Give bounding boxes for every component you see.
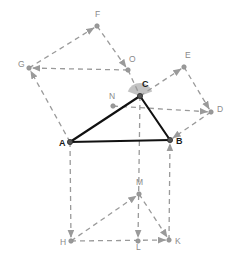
square-AB-edge-A-H — [70, 142, 71, 238]
vertex-label-f: F — [95, 10, 100, 19]
side-AB — [70, 140, 170, 142]
vertex-dot-k — [167, 238, 171, 242]
square-AB-edge-H-K — [71, 240, 166, 241]
square-CB-edge-E-D — [184, 67, 209, 109]
vertex-dot-f — [95, 24, 99, 28]
dashed-construction-lines — [29, 26, 211, 241]
vertex-dot-a — [67, 139, 72, 144]
vertex-dot-b — [167, 137, 172, 142]
vertex-label-l: L — [136, 243, 141, 252]
vertex-dot-n — [111, 104, 115, 108]
vertex-label-n: N — [109, 92, 115, 101]
square-AC-edge-G-F — [29, 28, 94, 68]
altitude-C-L — [138, 96, 140, 238]
median-M-K — [139, 194, 167, 237]
square-CB-edge-D-B — [173, 112, 211, 138]
parallel-N-D — [113, 106, 208, 112]
vertex-label-h: H — [60, 238, 66, 247]
vertex-label-b: B — [176, 137, 183, 146]
vertex-dot-d — [209, 110, 213, 114]
square-AC-edge-A-G — [31, 71, 70, 142]
vertex-dot-m — [137, 192, 141, 196]
vertex-label-m: M — [136, 178, 143, 187]
vertex-dot-g — [27, 66, 31, 70]
triangle-sides — [70, 96, 170, 142]
vertex-label-k: K — [175, 237, 181, 246]
square-AC-diagonal-O-G — [32, 68, 128, 70]
vertex-dot-h — [69, 239, 73, 243]
vertex-dot-c — [137, 93, 142, 98]
vertex-dot-e — [182, 65, 186, 69]
median-H-M — [71, 196, 136, 241]
vertex-label-d: D — [217, 105, 223, 114]
vertex-dot-o — [126, 68, 130, 72]
vertex-label-o: O — [129, 55, 136, 64]
square-AB-edge-K-B — [169, 143, 170, 240]
square-AC-edge-F-O — [97, 26, 126, 67]
geometry-canvas — [0, 0, 236, 267]
vertex-label-c: C — [142, 80, 149, 89]
side-CB — [140, 96, 170, 140]
side-AC — [70, 96, 140, 142]
geometry-figure: ABCDEFGHKLMNO — [0, 0, 236, 267]
vertex-label-a: A — [59, 139, 66, 148]
vertex-label-e: E — [185, 51, 191, 60]
vertex-label-g: G — [18, 60, 25, 69]
